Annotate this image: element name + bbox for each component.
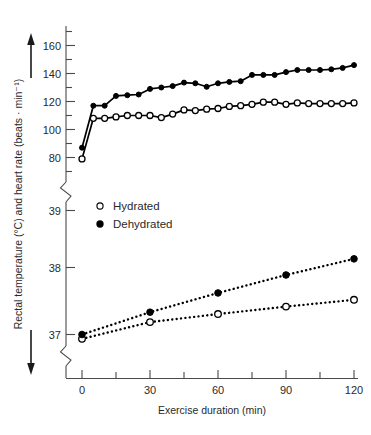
chart-legend: Hydrated Dehydrated	[97, 200, 173, 230]
data-point-marker	[170, 111, 176, 117]
data-point-marker	[192, 108, 198, 114]
series-hydrated-heart-rate	[79, 99, 357, 162]
y-tick-label-120: 120	[43, 96, 61, 108]
y-axis-title: Rectal temperature (°C) and heart rate (…	[12, 79, 24, 330]
series-dehydrated-rectal-temperature	[79, 256, 358, 338]
data-point-marker	[114, 93, 119, 98]
x-axis-tick-labels: 0 30 60 90 120	[79, 384, 363, 396]
data-point-marker	[306, 101, 312, 107]
data-point-marker	[147, 309, 154, 316]
data-point-marker	[158, 115, 164, 121]
data-point-marker	[340, 101, 346, 107]
data-point-marker	[113, 114, 119, 120]
x-axis-ticks	[82, 370, 354, 379]
y-axis-upper-tick-labels: 160 140 120 100 80	[43, 40, 61, 164]
data-point-marker	[136, 113, 142, 119]
y-tick-label-140: 140	[43, 68, 61, 80]
legend-label-dehydrated: Dehydrated	[113, 218, 172, 230]
data-point-marker	[124, 113, 130, 119]
data-point-marker	[351, 100, 357, 106]
data-point-marker	[340, 65, 345, 70]
y-axis-lower-ticks	[66, 211, 75, 335]
x-tick-label-0: 0	[79, 384, 85, 396]
data-point-marker	[102, 103, 107, 108]
data-point-marker	[170, 84, 175, 89]
data-point-marker	[159, 85, 164, 90]
data-point-marker	[181, 107, 187, 113]
data-point-marker	[136, 92, 141, 97]
data-point-marker	[283, 303, 290, 310]
data-point-marker	[193, 81, 198, 86]
data-point-marker	[352, 63, 357, 68]
data-point-marker	[295, 68, 300, 73]
y-axis-upper-ticks	[66, 32, 75, 172]
data-point-marker	[317, 101, 323, 107]
y-axis-spine	[61, 26, 72, 378]
data-point-marker	[215, 106, 221, 112]
data-point-marker	[79, 331, 86, 338]
y-tick-label-38: 38	[49, 262, 61, 274]
data-point-marker	[226, 103, 232, 109]
data-point-marker	[272, 72, 277, 77]
x-axis-title: Exercise duration (min)	[158, 404, 266, 416]
data-point-marker	[148, 86, 153, 91]
y-axis-lower-tick-labels: 39 38 37	[49, 205, 61, 341]
data-point-marker	[261, 72, 266, 77]
data-point-marker	[238, 103, 244, 109]
data-point-marker	[227, 79, 232, 84]
data-point-marker	[306, 68, 311, 73]
data-point-marker	[284, 70, 289, 75]
chart-figure: Rectal temperature (°C) and heart rate (…	[0, 0, 371, 435]
data-point-marker	[125, 93, 130, 98]
data-point-marker	[294, 100, 300, 106]
data-point-marker	[318, 68, 323, 73]
data-point-marker	[80, 145, 85, 150]
data-point-marker	[79, 156, 85, 162]
data-point-marker	[238, 79, 243, 84]
data-point-marker	[351, 296, 358, 303]
data-point-marker	[204, 84, 209, 89]
y-tick-label-37: 37	[49, 329, 61, 341]
line-chart: Rectal temperature (°C) and heart rate (…	[0, 0, 371, 435]
y-tick-label-160: 160	[43, 40, 61, 52]
data-point-marker	[250, 72, 255, 77]
data-point-marker	[283, 101, 289, 107]
data-point-marker	[102, 115, 108, 121]
data-point-marker	[147, 319, 154, 326]
legend-marker-dehydrated-filled-circle-icon	[97, 221, 103, 227]
y-axis-direction-arrow-top	[27, 33, 35, 78]
data-point-marker	[283, 272, 290, 279]
x-tick-label-90: 90	[280, 384, 292, 396]
series-line	[82, 300, 354, 339]
y-tick-label-39: 39	[49, 205, 61, 217]
x-tick-label-60: 60	[212, 384, 224, 396]
y-tick-label-100: 100	[43, 124, 61, 136]
y-axis-direction-arrow-bottom	[27, 330, 35, 375]
data-point-marker	[249, 101, 255, 107]
data-point-marker	[272, 99, 278, 105]
data-point-marker	[215, 311, 222, 318]
legend-marker-hydrated-open-circle-icon	[97, 203, 103, 209]
data-point-marker	[215, 290, 222, 297]
data-point-marker	[204, 106, 210, 112]
legend-label-hydrated: Hydrated	[113, 200, 160, 212]
data-point-marker	[329, 67, 334, 72]
data-point-marker	[182, 80, 187, 85]
data-point-marker	[216, 81, 221, 86]
x-tick-label-120: 120	[345, 384, 363, 396]
data-point-marker	[91, 103, 96, 108]
data-point-marker	[147, 113, 153, 119]
data-point-marker	[351, 256, 358, 263]
data-point-marker	[328, 101, 334, 107]
data-point-marker	[260, 99, 266, 105]
series-hydrated-rectal-temperature	[79, 296, 358, 342]
y-tick-label-80: 80	[49, 152, 61, 164]
x-tick-label-30: 30	[144, 384, 156, 396]
